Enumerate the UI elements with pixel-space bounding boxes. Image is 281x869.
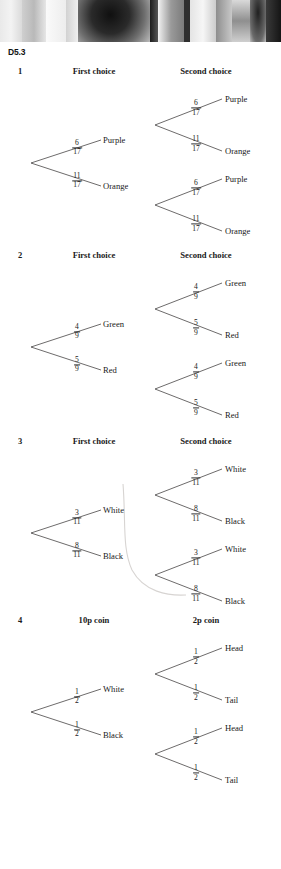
- fraction-numerator: 5: [193, 399, 199, 407]
- fraction-denominator: 2: [193, 738, 199, 746]
- outcome-label: Tail: [225, 775, 238, 785]
- probability-fraction: 59: [74, 356, 80, 373]
- outcome-label: Purple: [103, 135, 125, 145]
- outcome-label: Black: [103, 551, 123, 561]
- outcome-label: Red: [103, 365, 117, 375]
- branch-line-second-2: [155, 728, 222, 754]
- fraction-numerator: 1: [193, 648, 199, 656]
- fraction-numerator: 6: [191, 99, 201, 107]
- branch-line-first-0: [31, 689, 101, 712]
- scan-artifact-curve: [123, 484, 186, 595]
- fraction-denominator: 2: [74, 730, 80, 738]
- photo-band: [216, 0, 232, 42]
- branch-line-second-2: [155, 179, 222, 205]
- fraction-numerator: 8: [191, 585, 200, 593]
- photo-band: [266, 0, 281, 42]
- fraction-numerator: 1: [193, 764, 199, 772]
- outcome-label: White: [225, 464, 246, 474]
- photo-band: [0, 0, 22, 42]
- fraction-denominator: 9: [74, 365, 80, 373]
- fraction-denominator: 11: [72, 518, 81, 526]
- branch-line-first-1: [31, 533, 101, 556]
- probability-fraction: 59: [193, 319, 199, 336]
- fraction-numerator: 6: [191, 179, 201, 187]
- branch-line-first-0: [31, 510, 101, 533]
- branch-line-second-2: [155, 549, 222, 575]
- photo-band: [46, 0, 66, 42]
- fraction-denominator: 11: [191, 479, 200, 487]
- section-label: D5.3: [8, 47, 25, 57]
- fraction-numerator: 8: [191, 505, 200, 513]
- fraction-denominator: 2: [193, 694, 199, 702]
- fraction-numerator: 11: [191, 135, 201, 143]
- fraction-denominator: 17: [72, 148, 82, 156]
- probability-fraction: 311: [191, 549, 200, 566]
- fraction-numerator: 1: [193, 684, 199, 692]
- fraction-numerator: 5: [193, 319, 199, 327]
- fraction-denominator: 2: [74, 697, 80, 705]
- fraction-denominator: 11: [191, 559, 200, 567]
- fraction-numerator: 3: [191, 469, 200, 477]
- fraction-numerator: 6: [72, 139, 82, 147]
- outcome-label: Red: [225, 410, 239, 420]
- outcome-label: Orange: [103, 181, 128, 191]
- fraction-numerator: 4: [74, 323, 80, 331]
- fraction-numerator: 5: [74, 356, 80, 364]
- outcome-label: Orange: [225, 226, 250, 236]
- probability-fraction: 12: [193, 648, 199, 665]
- branch-line-first-1: [31, 163, 101, 186]
- probability-fraction: 811: [72, 542, 81, 559]
- probability-fraction: 311: [191, 469, 200, 486]
- outcome-label: Green: [103, 319, 124, 329]
- fraction-denominator: 9: [193, 293, 199, 301]
- fraction-denominator: 17: [72, 181, 82, 189]
- branch-line-second-1: [155, 125, 222, 151]
- branch-line-first-0: [31, 140, 101, 163]
- fraction-denominator: 17: [191, 225, 201, 233]
- probability-fraction: 49: [193, 283, 199, 300]
- fraction-numerator: 4: [193, 283, 199, 291]
- fraction-numerator: 11: [72, 172, 82, 180]
- fraction-denominator: 2: [193, 774, 199, 782]
- outcome-label: Orange: [225, 146, 250, 156]
- fraction-denominator: 17: [191, 189, 201, 197]
- outcome-label: White: [103, 505, 124, 515]
- outcome-label: Head: [225, 723, 243, 733]
- fraction-numerator: 11: [191, 215, 201, 223]
- branch-line-second-1: [155, 495, 222, 521]
- probability-fraction: 12: [193, 764, 199, 781]
- probability-fraction: 49: [74, 323, 80, 340]
- photo-band: [250, 0, 266, 42]
- photo-band: [190, 0, 216, 42]
- outcome-label: Head: [225, 643, 243, 653]
- fraction-numerator: 3: [72, 509, 81, 517]
- probability-fraction: 311: [72, 509, 81, 526]
- outcome-label: Green: [225, 278, 246, 288]
- fraction-denominator: 17: [191, 109, 201, 117]
- probability-fraction: 617: [191, 179, 201, 196]
- outcome-label: Black: [225, 596, 245, 606]
- photo-band: [232, 0, 250, 42]
- photo-band: [22, 0, 46, 42]
- fraction-numerator: 1: [74, 721, 80, 729]
- exercise-block: 410p coin2p coin12White12Black12Head12Ta…: [0, 615, 281, 805]
- fraction-denominator: 17: [191, 145, 201, 153]
- fraction-numerator: 8: [72, 542, 81, 550]
- branch-line-second-3: [155, 754, 222, 780]
- probability-fraction: 12: [74, 721, 80, 738]
- exercise-block: 1First choiceSecond choice617Purple1117O…: [0, 66, 281, 256]
- branch-line-second-3: [155, 205, 222, 231]
- outcome-label: Purple: [225, 94, 247, 104]
- probability-fraction: 811: [191, 505, 200, 522]
- fraction-denominator: 9: [193, 329, 199, 337]
- branch-line-first-0: [31, 324, 101, 347]
- probability-fraction: 12: [74, 688, 80, 705]
- probability-fraction: 59: [193, 399, 199, 416]
- outcome-label: Tail: [225, 695, 238, 705]
- fraction-numerator: 4: [193, 363, 199, 371]
- photo-band: [66, 0, 78, 42]
- fraction-denominator: 11: [191, 515, 200, 523]
- branch-line-second-1: [155, 309, 222, 335]
- probability-fraction: 811: [191, 585, 200, 602]
- outcome-label: Red: [225, 330, 239, 340]
